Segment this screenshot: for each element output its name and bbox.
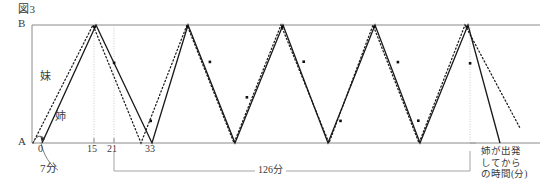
x-axis-caption: 姉が出発 してから の時間(分) [481,146,527,181]
series-label-imouto: 妹 [40,71,51,82]
intersection-markers [93,26,471,123]
figure-title: 図3 [18,4,36,15]
x-tick-label-0: 0 [38,144,43,154]
axis-label-a: A [18,136,26,147]
axis-label-b: B [18,18,25,29]
x-tick-label-21: 21 [107,144,117,154]
x-axis-caption-line-1: 姉が出発 [481,146,527,158]
annotation-126min: 126分 [255,165,286,175]
x-axis-caption-line-2: してから [481,158,527,170]
series-label-ane: 姉 [55,111,66,122]
x-axis-caption-line-3: の時間(分) [481,169,527,181]
x-tick-label-15: 15 [87,144,97,154]
x-tick-label-33: 33 [145,144,155,154]
annotation-7min: 7分 [40,163,57,174]
series-line-ane [42,25,500,143]
